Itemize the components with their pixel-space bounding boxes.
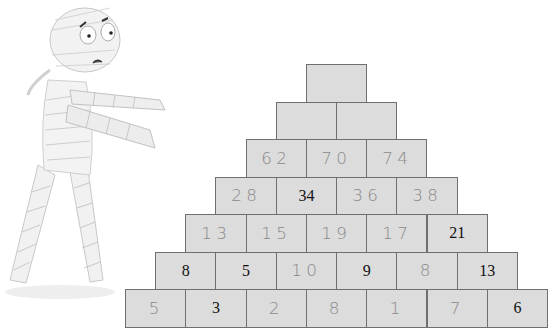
pyramid-block: 38 [396, 177, 457, 216]
pyramid-block[interactable] [276, 102, 337, 141]
pyramid-block: 62 [246, 139, 307, 178]
block-value-handwritten: 62 [261, 149, 291, 168]
pyramid-block: 5 [215, 252, 276, 291]
block-value-handwritten: 5 [148, 299, 163, 318]
block-value-printed: 8 [182, 262, 190, 280]
block-value-handwritten: 1 [389, 299, 404, 318]
pyramid-block: 1 [366, 289, 427, 328]
pyramid-block: 13 [185, 214, 246, 253]
pyramid-block[interactable] [306, 64, 367, 103]
block-value-handwritten: 17 [382, 224, 412, 243]
number-pyramid: 627074283436381315191721851098135328176 [0, 0, 552, 334]
block-value-printed: 6 [513, 299, 521, 317]
pyramid-block: 5 [125, 289, 186, 328]
pyramid-block: 10 [276, 252, 337, 291]
block-value-handwritten: 38 [412, 186, 442, 205]
pyramid-block: 7 [427, 289, 488, 328]
pyramid-block: 74 [366, 139, 427, 178]
pyramid-block: 3 [185, 289, 246, 328]
pyramid-block: 15 [246, 214, 307, 253]
block-value-handwritten: 7 [450, 299, 465, 318]
pyramid-block: 70 [306, 139, 367, 178]
block-value-printed: 21 [449, 224, 465, 242]
block-value-printed: 9 [363, 262, 371, 280]
pyramid-block: 8 [396, 252, 457, 291]
pyramid-block: 17 [366, 214, 427, 253]
pyramid-block[interactable] [336, 102, 397, 141]
pyramid-block: 21 [427, 214, 488, 253]
block-value-handwritten: 19 [322, 224, 352, 243]
pyramid-block: 19 [306, 214, 367, 253]
block-value-handwritten: 36 [352, 186, 382, 205]
pyramid-block: 8 [155, 252, 216, 291]
pyramid-block: 28 [215, 177, 276, 216]
pyramid-block: 34 [276, 177, 337, 216]
pyramid-block: 6 [487, 289, 548, 328]
block-value-printed: 13 [479, 262, 495, 280]
block-value-printed: 3 [212, 299, 220, 317]
pyramid-block: 36 [336, 177, 397, 216]
block-value-handwritten: 8 [329, 299, 344, 318]
block-value-handwritten: 13 [201, 224, 231, 243]
block-value-handwritten: 74 [382, 149, 412, 168]
block-value-printed: 5 [242, 262, 250, 280]
pyramid-block: 9 [336, 252, 397, 291]
block-value-handwritten: 15 [261, 224, 291, 243]
block-value-handwritten: 8 [420, 261, 435, 280]
block-value-handwritten: 10 [292, 261, 322, 280]
block-value-handwritten: 70 [322, 149, 352, 168]
pyramid-block: 2 [246, 289, 307, 328]
block-value-handwritten: 2 [269, 299, 284, 318]
pyramid-block: 8 [306, 289, 367, 328]
pyramid-block: 13 [457, 252, 518, 291]
block-value-printed: 34 [298, 187, 314, 205]
block-value-handwritten: 28 [231, 186, 261, 205]
